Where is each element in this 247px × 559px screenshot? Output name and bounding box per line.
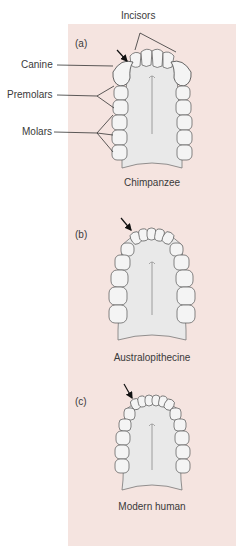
molars-label: Molars [22, 126, 52, 137]
australopithecine-caption: Australopithecine [68, 352, 236, 363]
panel-c-label: (c) [75, 396, 87, 407]
incisors-label: Incisors [121, 10, 155, 21]
panel-a-label: (a) [75, 38, 87, 49]
panel-b-label: (b) [75, 229, 87, 240]
chimpanzee-jaw [54, 33, 192, 168]
chimpanzee-caption: Chimpanzee [68, 177, 236, 188]
modern-human-caption: Modern human [68, 501, 236, 512]
canine-label: Canine [21, 59, 53, 70]
premolars-label: Premolars [7, 89, 53, 100]
dental-arcade-illustration [0, 0, 247, 559]
australopithecine-jaw [109, 218, 195, 340]
modern-human-jaw [115, 384, 190, 490]
